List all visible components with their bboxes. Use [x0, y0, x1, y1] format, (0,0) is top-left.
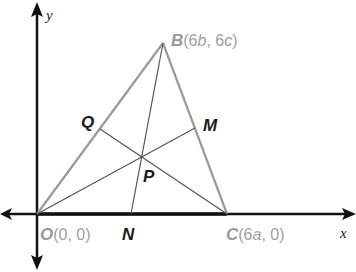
median-BN — [131, 43, 163, 214]
triangle-diagram: y x B(6b, 6c) O(0, 0) C(6a, 0) Q M N P — [0, 0, 356, 272]
vertex-label-B: B(6b, 6c) — [171, 31, 238, 50]
x-axis-label: x — [339, 225, 347, 241]
vertex-label-O: O(0, 0) — [40, 225, 91, 244]
midpoint-label-M: M — [203, 116, 218, 135]
median-CQ — [100, 129, 227, 214]
median-OM — [37, 128, 195, 214]
vertex-label-C: C(6a, 0) — [226, 225, 285, 244]
midpoint-label-Q: Q — [81, 113, 94, 132]
segment-OB — [37, 43, 163, 214]
y-axis-label: y — [44, 7, 53, 23]
centroid-label-P: P — [143, 167, 155, 186]
midpoint-label-N: N — [122, 225, 135, 244]
